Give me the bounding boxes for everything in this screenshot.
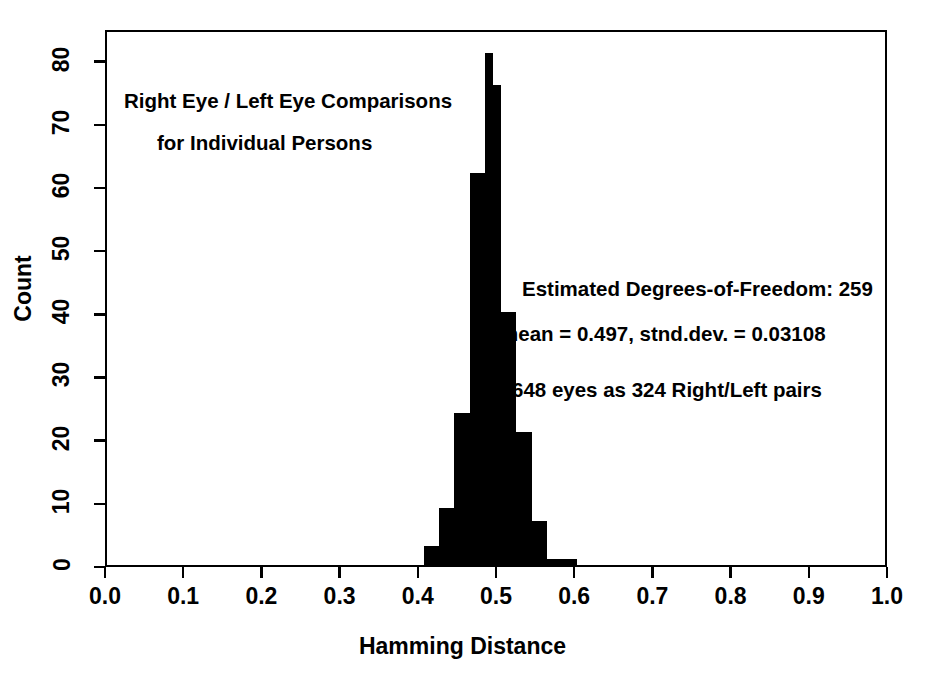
y-tick-mark — [94, 187, 105, 190]
histogram-chart: Count 01020304050607080 0.00.10.20.30.40… — [0, 0, 925, 694]
y-axis-title: Count — [10, 229, 37, 349]
x-axis-title: Hamming Distance — [0, 633, 925, 660]
y-tick-label: 0 — [40, 551, 84, 578]
x-tick-label: 0.3 — [305, 583, 375, 610]
chart-caption-line-1: Right Eye / Left Eye Comparisons — [124, 89, 452, 113]
x-tick-mark — [886, 567, 889, 578]
y-tick-mark — [94, 313, 105, 316]
x-tick-label: 0.1 — [148, 583, 218, 610]
stat-degrees-of-freedom: Estimated Degrees-of-Freedom: 259 — [522, 277, 873, 301]
y-tick-mark — [94, 376, 105, 379]
x-tick-mark — [573, 567, 576, 578]
x-tick-label: 0.2 — [226, 583, 296, 610]
x-tick-label: 0.0 — [70, 583, 140, 610]
x-tick-mark — [808, 567, 811, 578]
y-tick-label: 40 — [40, 298, 84, 325]
y-tick-mark — [94, 124, 105, 127]
x-tick-label: 0.4 — [383, 583, 453, 610]
y-tick-mark — [94, 503, 105, 506]
x-tick-label: 0.6 — [539, 583, 609, 610]
x-tick-label: 0.9 — [774, 583, 844, 610]
y-tick-label: 50 — [40, 235, 84, 262]
stat-mean-stddev: mean = 0.497, stnd.dev. = 0.03108 — [500, 322, 826, 346]
histogram-bar — [569, 559, 577, 565]
y-tick-label: 30 — [40, 361, 84, 388]
y-tick-label: 60 — [40, 172, 84, 199]
chart-caption-line-2: for Individual Persons — [157, 131, 372, 155]
x-tick-mark — [651, 567, 654, 578]
x-tick-label: 0.8 — [696, 583, 766, 610]
x-tick-mark — [729, 567, 732, 578]
y-tick-label: 80 — [40, 46, 84, 73]
x-tick-label: 0.5 — [461, 583, 531, 610]
y-tick-label: 70 — [40, 109, 84, 136]
stat-sample-size: 648 eyes as 324 Right/Left pairs — [512, 378, 822, 402]
x-tick-mark — [182, 567, 185, 578]
x-tick-mark — [495, 567, 498, 578]
y-tick-label: 10 — [40, 488, 84, 515]
y-tick-mark — [94, 60, 105, 63]
y-tick-mark — [94, 439, 105, 442]
x-tick-label: 0.7 — [617, 583, 687, 610]
x-tick-mark — [260, 567, 263, 578]
y-tick-label: 20 — [40, 425, 84, 452]
x-tick-label: 1.0 — [852, 583, 922, 610]
x-tick-mark — [338, 567, 341, 578]
y-tick-mark — [94, 250, 105, 253]
x-tick-mark — [104, 567, 107, 578]
x-tick-mark — [417, 567, 420, 578]
